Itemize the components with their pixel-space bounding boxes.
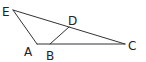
segment-EA [13, 10, 37, 44]
segment-BD [50, 27, 69, 44]
point-label-A: A [24, 45, 33, 59]
labels-group: E A B D C [2, 5, 136, 62]
point-label-D: D [68, 14, 77, 28]
point-label-E: E [2, 5, 10, 19]
diagram-svg: E A B D C [0, 0, 146, 62]
point-label-C: C [128, 39, 136, 53]
point-label-B: B [46, 49, 54, 62]
geometry-diagram: E A B D C [0, 0, 146, 62]
